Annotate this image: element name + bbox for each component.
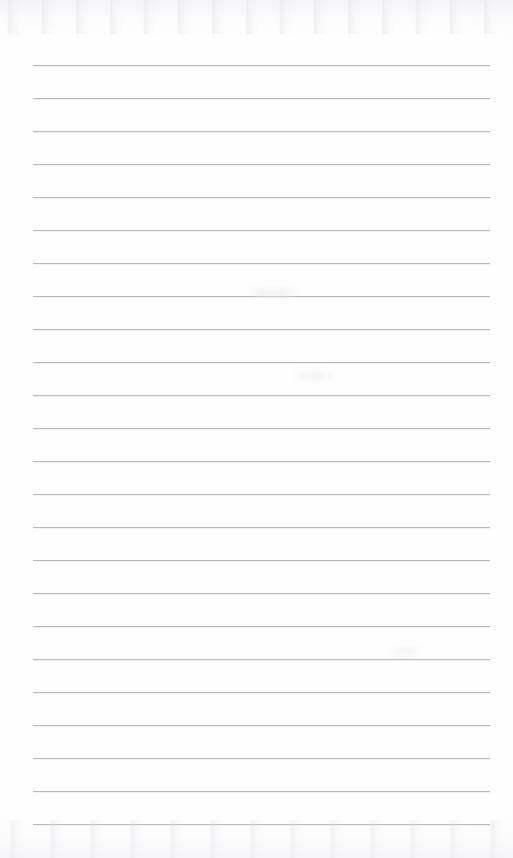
ruled-line [33, 692, 490, 693]
ruled-line [33, 98, 490, 99]
ruled-line [33, 296, 490, 297]
ruled-lines-group [0, 0, 513, 858]
ruled-line [33, 560, 490, 561]
ruled-line [33, 197, 490, 198]
ruled-line [33, 164, 490, 165]
ruled-line [33, 758, 490, 759]
ruled-line [33, 230, 490, 231]
ruled-line [33, 593, 490, 594]
ruled-line [33, 428, 490, 429]
ruled-line [33, 626, 490, 627]
ruled-line [33, 791, 490, 792]
ruled-line [33, 362, 490, 363]
ruled-line [33, 461, 490, 462]
ruled-line [33, 263, 490, 264]
scanned-page [0, 0, 513, 858]
ruled-line [33, 494, 490, 495]
ruled-line [33, 131, 490, 132]
ruled-line [33, 329, 490, 330]
ruled-line [33, 659, 490, 660]
ruled-line [33, 824, 490, 825]
ruled-line [33, 527, 490, 528]
ruled-line [33, 725, 490, 726]
ruled-line [33, 395, 490, 396]
ruled-line [33, 65, 490, 66]
